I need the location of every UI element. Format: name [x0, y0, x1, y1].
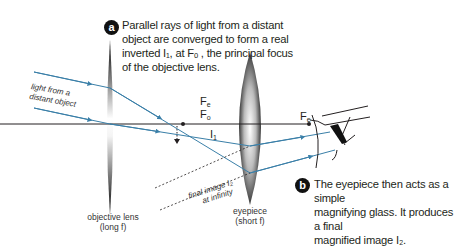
callout-b-line: magnified image I₂.: [314, 233, 461, 247]
objective-label-line: objective lens: [78, 212, 148, 222]
Fe-focal-label: Fe: [200, 95, 211, 108]
callout-a-line: inverted I₁, at Fₒ , the principal focus: [122, 46, 293, 60]
callout-a-text: Parallel rays of light from a distant ob…: [122, 18, 293, 74]
callout-b-line: magnifying glass. It produces a final: [314, 205, 461, 233]
callout-a-line: Parallel rays of light from a distant: [122, 18, 293, 32]
callout-b-text: The eyepiece then acts as a simple magni…: [314, 177, 461, 247]
objective-label-line: (long f): [78, 222, 148, 232]
eyepiece-label-line: eyepiece: [225, 206, 275, 216]
callout-a-line: object are converged to form a real: [122, 32, 293, 46]
callout-b-badge: b: [295, 178, 310, 193]
callout-a-badge: a: [104, 20, 119, 35]
Fe-eyepiece-focal-label: Fe: [300, 110, 311, 123]
eyepiece-label: eyepiece (short f): [225, 206, 275, 226]
callout-b-line: The eyepiece then acts as a simple: [314, 177, 461, 205]
objective-lens: [107, 40, 113, 215]
Fo-focal-label: Fo: [200, 108, 211, 121]
objective-lens-label: objective lens (long f): [78, 212, 148, 232]
eyepiece-label-line: (short f): [225, 216, 275, 226]
eyepiece-lens: [239, 52, 261, 205]
callout-a-line: of the objective lens.: [122, 60, 293, 74]
I1-image-label: I1: [210, 128, 217, 141]
